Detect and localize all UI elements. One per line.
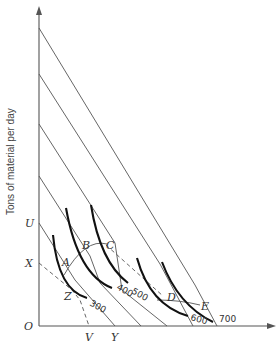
label-u: U — [25, 217, 35, 230]
label-y: Y — [111, 331, 120, 344]
label-point-e: E — [200, 300, 209, 313]
y-axis-label: Tons of material per day — [5, 108, 16, 215]
isoquants — [53, 205, 213, 322]
label-point-b: B — [81, 239, 90, 252]
label-point-c: C — [106, 239, 115, 252]
isoquant-600 — [137, 258, 188, 316]
isoquant-label-500: 500 — [130, 286, 150, 303]
isoquant-label-700: 700 — [219, 314, 236, 324]
label-x: X — [24, 257, 34, 270]
label-point-z: Z — [63, 290, 72, 303]
label-origin: O — [24, 320, 33, 333]
label-v: V — [85, 331, 94, 344]
label-point-a: A — [61, 256, 70, 269]
isoquant-diagram: Tons of material per day O U X V Y A B C… — [0, 0, 278, 350]
label-point-d: D — [166, 291, 176, 304]
y-axis-arrow-icon — [36, 6, 42, 15]
dashed-lines — [39, 245, 163, 326]
x-axis-arrow-icon — [267, 323, 276, 329]
axes — [36, 6, 276, 329]
isoquant-label-300: 300 — [88, 298, 108, 315]
